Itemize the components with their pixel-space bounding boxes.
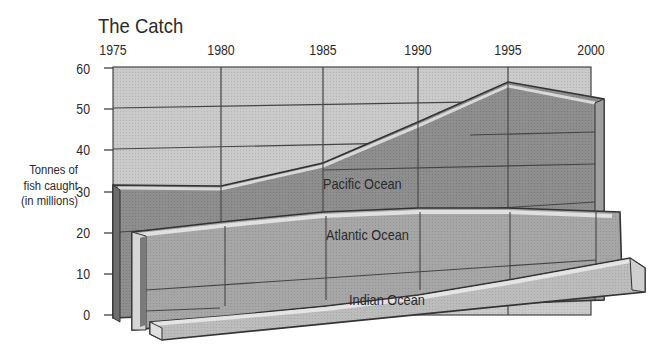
label-indian-ocean: Indian Ocean bbox=[349, 291, 425, 308]
label-atlantic-ocean: Atlantic Ocean bbox=[326, 226, 409, 243]
chart-plot bbox=[0, 0, 656, 345]
label-pacific-ocean: Pacific Ocean bbox=[323, 175, 402, 192]
